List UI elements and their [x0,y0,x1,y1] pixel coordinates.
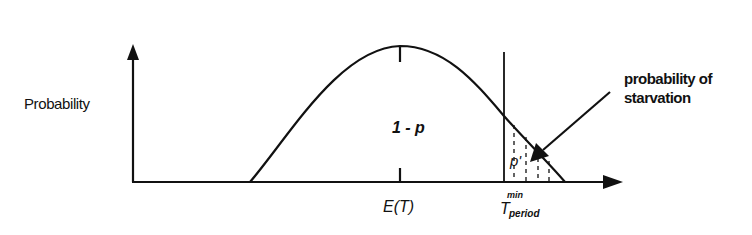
y-axis-label: Probability [24,95,91,112]
annotation-text-line2: starvation [624,89,691,106]
annotation-arrow [530,92,610,162]
threshold-label: min T period [500,190,540,219]
tail-area-label: p' [509,152,522,169]
annotation-text-line1: probability of [624,70,714,87]
y-axis [127,44,139,182]
mean-label: E(T) [383,198,414,215]
starvation-probability-diagram: Probability 1 - p p' probability of star… [0,0,752,235]
x-axis-arrow-icon [603,175,623,189]
threshold-subscript: period [508,208,540,219]
threshold-superscript: min [507,190,524,200]
main-area-label: 1 - p [392,119,425,136]
y-axis-arrow-icon [127,44,139,60]
